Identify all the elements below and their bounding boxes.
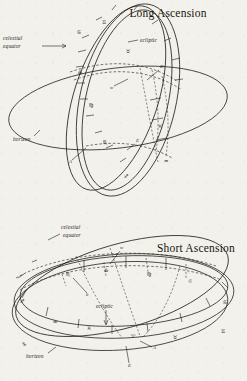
horizon-label-group: horizon (26, 347, 56, 359)
horizon-label: horizon (26, 353, 44, 359)
sign-glyph-virgo: ♍ (89, 102, 94, 108)
sign-glyph-libra: ♎ (78, 69, 83, 75)
celestial-equator-label-line1: celestial (61, 224, 81, 230)
figure-long-ascension: ♊ ♉ ♋ ♎ ♍ ♏ ♐ ♓ ♒ Long Ascension celesti… (0, 0, 247, 196)
point-label-d: D (159, 64, 164, 69)
sign-glyph-scorpio: ♏ (66, 271, 71, 277)
ecliptic-sign-glyphs: ♑ ♒ ♓ ♈ ♉ ♊ ♐ (20, 298, 226, 381)
ecliptic-band-inner (66, 1, 187, 199)
ecliptic-graduations (18, 260, 228, 334)
celestial-equator-label-group: celestial equator (3, 35, 66, 49)
sign-glyph-pisces: ♓ (158, 123, 163, 129)
celestial-equator-leader (48, 234, 60, 240)
horizon-leader (34, 130, 40, 136)
horizon-leader (48, 347, 56, 353)
point-label-w: w (120, 245, 124, 250)
equator-sign-glyphs: ♏ ♎ ♍ ♌ ♋ (66, 267, 228, 305)
celestial-equator-label-line1: celestial (3, 35, 23, 41)
celestial-equator-label-group: celestial equator (48, 224, 82, 240)
point-label-a: A (152, 345, 156, 350)
figure-short-ascension: ♑ ♒ ♓ ♈ ♉ ♊ ♐ ♒ ♏ ♎ ♍ ♌ ♋ Short Ascensio… (0, 186, 247, 381)
ecliptic-label-group: ecliptic (128, 37, 158, 43)
sign-glyph-aquarius-band: ♒ (53, 319, 58, 325)
equator-sign-glyphs: ♓ ♒ (158, 123, 169, 164)
ecliptic-label: ecliptic (140, 37, 158, 43)
sign-glyph-libra: ♎ (104, 267, 109, 273)
celestial-equator-circle (5, 215, 240, 356)
sign-glyph-taurus: ♉ (173, 334, 178, 340)
ecliptic-band-inner (18, 251, 229, 332)
sign-glyph-gemini: ♊ (221, 328, 226, 334)
point-label-e: E (127, 363, 131, 368)
sign-glyph-cancer: ♋ (223, 299, 228, 305)
ecliptic-leader (128, 40, 138, 42)
sign-glyph-pisces: ♓ (87, 325, 92, 331)
sign-glyph-gemini: ♊ (102, 19, 107, 25)
point-label-e: E (135, 138, 139, 143)
sign-glyph-sagittarius: ♐ (124, 173, 129, 179)
ecliptic-label: ecliptic (96, 303, 114, 309)
sign-glyph-virgo: ♍ (147, 271, 152, 277)
celestial-equator-label-line2: equator (3, 43, 22, 49)
sign-glyph-leo: ♌ (188, 278, 193, 284)
sign-glyph-capricorn: ♑ (22, 341, 27, 347)
point-markers-long: D w A E (68, 64, 164, 164)
horizon-circle (9, 255, 231, 358)
sign-glyph-aquarius: ♒ (164, 158, 169, 164)
figure-title-short: Short Ascension (157, 242, 235, 254)
figure-title-long: Long Ascension (129, 7, 206, 20)
celestial-equator-circle (46, 0, 185, 202)
point-label-a: A (68, 159, 72, 164)
sign-glyph-aries: ♈ (131, 333, 136, 339)
horizon-label: horizon (13, 136, 31, 142)
horizon-circle (4, 55, 232, 161)
sign-glyph-taurus: ♉ (126, 48, 131, 54)
sign-glyph-scorpio: ♏ (103, 139, 108, 145)
point-label-w: w (110, 85, 114, 90)
ecliptic-graduations (76, 5, 183, 162)
celestial-equator-label-line2: equator (63, 232, 82, 238)
sign-glyph-sagittarius: ♐ (20, 298, 25, 304)
horizon-label-group: horizon (13, 130, 40, 142)
sign-glyph-cancer: ♋ (77, 29, 82, 35)
